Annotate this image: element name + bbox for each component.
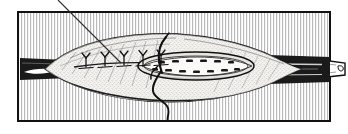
tendon-tip-end-detail [338,66,343,71]
figure-container [0,0,348,134]
surgical-illustration [0,0,348,134]
